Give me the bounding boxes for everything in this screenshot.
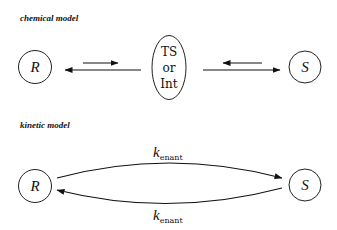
reverse-rate-subscript: enant [160, 216, 184, 225]
kin-node-r-label: R [29, 178, 39, 194]
kinetic-model-title: kinetic model [20, 120, 70, 130]
chem-node-r-label: R [29, 59, 39, 75]
chem-node-ts-line1: TS [161, 45, 177, 59]
chemical-model-title: chemical model [20, 13, 79, 23]
forward-rate-label: kenant [153, 144, 183, 162]
forward-rate-subscript: enant [160, 153, 184, 162]
forward-rate-arc-icon [57, 163, 282, 178]
chemical-model-section: chemical model R TS or Int S [19, 13, 322, 100]
chem-node-s-label: S [301, 59, 309, 75]
chem-node-s: S [289, 51, 321, 83]
reaction-model-diagram: chemical model R TS or Int S [0, 0, 337, 230]
chem-node-ts-or-int: TS or Int [152, 36, 186, 100]
kin-node-r: R [19, 170, 52, 203]
reverse-rate-label: kenant [153, 207, 183, 225]
chem-equilibrium-arrows-left [65, 63, 141, 70]
chem-node-ts-line2: or [163, 61, 176, 75]
chem-equilibrium-arrows-right [203, 63, 280, 70]
kin-node-s: S [289, 169, 321, 201]
reverse-rate-arc-icon [57, 188, 282, 204]
chem-node-ts-line3: Int [160, 77, 177, 91]
kin-node-s-label: S [301, 177, 309, 193]
kinetic-model-section: kinetic model R kenant kenant S [19, 120, 322, 225]
chem-node-r: R [19, 51, 52, 84]
